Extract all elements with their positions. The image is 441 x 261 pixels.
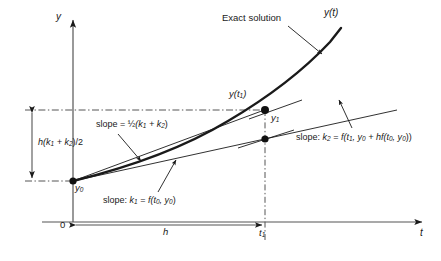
y1-subscript: 1: [276, 116, 280, 123]
leader-exact-solution: [288, 26, 322, 54]
slope-avg-close: ): [165, 119, 168, 129]
slope-avg-pre: slope =: [96, 119, 128, 129]
y0-label: y0: [75, 183, 83, 194]
leader-slope-k1: [158, 160, 176, 192]
step-h-label: h: [163, 227, 168, 237]
leader-slope-k2: [339, 100, 352, 128]
origin-label: 0: [60, 220, 65, 230]
slope-avg-open: (k: [135, 119, 143, 129]
exact-solution-curve: [73, 28, 341, 181]
slope-k2-label: slope: k2 = f(t1, y0 + hf(t0, y0)): [296, 133, 412, 143]
y-at-t1-text: y(t: [229, 88, 240, 99]
slope-k2-eq: =: [331, 132, 341, 142]
t-axis-label: t: [420, 228, 423, 239]
slope-k1-eq: =: [138, 195, 148, 205]
slope-average-label: slope = ½(k1 + k2): [96, 120, 168, 130]
bracket-post: )/2: [73, 137, 84, 147]
diagram-svg: [0, 0, 441, 261]
slope-k2-comma: , y: [353, 132, 363, 142]
slope-k1-close: ): [173, 195, 176, 205]
bracket-mid: + k: [54, 137, 69, 147]
y-at-t1-label: y(t1): [229, 89, 246, 100]
slope-k1-label: slope: k1 = f(t0, y0): [103, 196, 176, 206]
bracket-pre: h(k: [38, 137, 51, 147]
t1-label: t1: [259, 228, 265, 239]
y0-subscript: 0: [80, 186, 84, 193]
y-axis-label: y: [56, 12, 61, 23]
leader-slope-average: [118, 134, 141, 161]
y-at-t1-close: ): [243, 88, 246, 99]
slope-avg-plus: + k: [146, 119, 161, 129]
exact-solution-label: Exact solution: [222, 13, 281, 23]
slope-k2-comma2: , y: [393, 132, 403, 142]
slope-k2-pre: slope:: [296, 132, 323, 142]
slope-k2-close: )): [406, 132, 412, 142]
slope-k1-comma: , y: [160, 195, 170, 205]
slope-k2-plus: + h: [366, 132, 381, 142]
slope-k1-pre: slope:: [103, 195, 130, 205]
figure-canvas: y t 0 Exact solution y(t) y(t1) y1 y0 t1…: [0, 0, 441, 261]
bracket-height-label: h(k1 + k2)/2: [38, 138, 83, 148]
leader-lines: [118, 26, 352, 192]
y1-label: y1: [271, 113, 279, 124]
point-euler-predictor: [261, 135, 268, 142]
point-y1: [261, 106, 269, 114]
curve-name-label: y(t): [324, 8, 338, 19]
t1-subscript: 1: [262, 231, 266, 238]
